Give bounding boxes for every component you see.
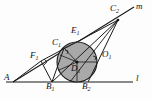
point-F1-base: F <box>30 50 36 60</box>
point-E1-sub: 1 <box>77 30 80 36</box>
point-C1-sub: 1 <box>58 42 61 48</box>
point-E1-base: E <box>71 25 77 35</box>
segment-A-F1 <box>13 61 41 82</box>
point-D1-base: D <box>71 63 78 73</box>
point-C1-label: C1 <box>52 38 61 47</box>
point-O1-sub: 1 <box>109 54 112 60</box>
dot-C2 <box>117 19 120 22</box>
point-B1-sub: 1 <box>52 86 55 92</box>
point-C2-label: C2 <box>110 4 119 13</box>
point-C2-sub: 2 <box>116 8 119 14</box>
geometry-figure: A B1 B2 C1 C2 D1 E1 F1 O1 l m <box>0 0 152 100</box>
point-B2-base: B <box>82 81 88 91</box>
line-m-label: m <box>136 2 143 11</box>
point-B1-base: B <box>46 81 52 91</box>
point-B2-sub: 2 <box>88 86 91 92</box>
point-D1-sub: 1 <box>78 68 81 74</box>
point-B2-label: B2 <box>82 82 91 91</box>
point-E1-label: E1 <box>71 26 80 35</box>
point-F1-label: F1 <box>30 51 39 60</box>
point-D1-label: D1 <box>71 64 81 73</box>
point-B1-label: B1 <box>46 82 55 91</box>
point-O1-label: O1 <box>102 50 112 59</box>
figure-canvas <box>0 0 152 100</box>
segment-F1-B1 <box>41 61 52 82</box>
point-A-label: A <box>4 73 10 82</box>
point-A-base: A <box>4 72 10 82</box>
point-F1-sub: 1 <box>36 55 39 61</box>
point-O1-base: O <box>102 49 109 59</box>
line-l-label: l <box>136 74 139 83</box>
